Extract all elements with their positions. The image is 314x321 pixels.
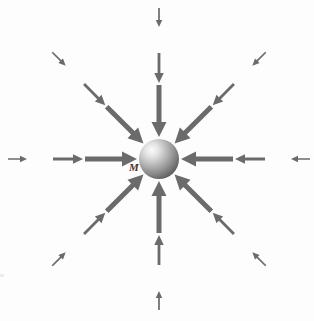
mass-sphere-icon bbox=[139, 139, 179, 179]
field-arrow-from-upper-left-inner bbox=[175, 105, 214, 144]
field-arrow-from-upper-right-inner bbox=[105, 105, 144, 144]
field-arrow-from-bottom-middle bbox=[154, 235, 164, 265]
field-arrow-from-left-middle bbox=[235, 154, 265, 164]
field-diagram-canvas bbox=[0, 0, 314, 321]
field-arrow-from-right-outer bbox=[8, 156, 27, 163]
field-arrow-from-top-middle bbox=[154, 53, 164, 83]
field-arrow-from-lower-right-outer bbox=[52, 252, 66, 266]
edge-artifact bbox=[0, 274, 4, 277]
field-arrow-from-lower-right-middle bbox=[83, 213, 105, 235]
field-arrow-from-lower-right-inner bbox=[105, 175, 144, 214]
gravitational-field-figure: M bbox=[0, 0, 314, 321]
mass-sphere-layer bbox=[139, 139, 179, 179]
field-arrow-from-bottom-inner bbox=[152, 181, 167, 233]
field-arrow-from-lower-left-middle bbox=[213, 213, 235, 235]
field-arrow-from-top-inner bbox=[152, 85, 167, 137]
field-arrow-from-top-outer bbox=[156, 8, 163, 27]
field-arrow-from-lower-left-outer bbox=[252, 252, 266, 266]
mass-label: M bbox=[129, 162, 139, 173]
field-arrow-from-right-middle bbox=[53, 154, 83, 164]
field-arrow-from-upper-right-outer bbox=[52, 52, 66, 66]
field-arrow-from-left-inner bbox=[181, 152, 233, 167]
field-arrow-from-upper-right-middle bbox=[83, 83, 105, 105]
field-arrow-from-left-outer bbox=[291, 156, 310, 163]
field-arrow-from-bottom-outer bbox=[156, 291, 163, 310]
field-arrow-from-upper-left-outer bbox=[252, 52, 266, 66]
field-arrow-from-upper-left-middle bbox=[213, 83, 235, 105]
field-arrow-from-lower-left-inner bbox=[175, 175, 214, 214]
